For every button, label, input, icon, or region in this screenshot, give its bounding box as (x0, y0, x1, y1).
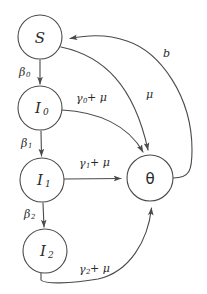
edge-label-beta0-greek: β (18, 66, 25, 79)
node-i1-subscript: 1 (45, 179, 51, 189)
node-s[interactable]: S (18, 15, 62, 59)
edge-i0-to-theta (62, 110, 143, 152)
node-i1-label: I (36, 171, 44, 189)
node-s-label: S (35, 29, 45, 47)
edge-label-gamma2-greek: γ (79, 263, 86, 276)
node-i2-subscript: 2 (47, 250, 54, 260)
edge-label-beta2: β 2 (23, 208, 36, 222)
node-theta[interactable]: θ (127, 155, 173, 201)
edge-label-beta1: β 1 (20, 137, 32, 151)
node-i2-label: I (39, 242, 47, 260)
edge-label-gamma1-plus-mu: γ 1 + μ (79, 156, 110, 171)
edge-label-gamma0-plus-mu: γ 0 + μ (76, 91, 107, 106)
edge-label-gamma2-plus-mu: γ 2 + μ (79, 262, 110, 277)
edge-label-mu: μ (146, 88, 153, 101)
node-i2[interactable]: I 2 (23, 229, 67, 273)
edge-label-beta2-subscript: 2 (30, 213, 36, 221)
edge-label-beta0: β 0 (18, 66, 31, 80)
edge-label-beta2-greek: β (23, 208, 30, 221)
edge-label-beta1-greek: β (20, 137, 27, 150)
node-i0-label: I (34, 99, 42, 117)
edge-i1-to-theta (64, 179, 121, 180)
edge-label-beta0-subscript: 0 (26, 71, 31, 79)
compartmental-flow-diagram: S I 0 I 1 I 2 θ β 0 β 1 (0, 0, 207, 294)
node-i0-subscript: 0 (43, 107, 49, 117)
node-i1[interactable]: I 1 (20, 158, 64, 202)
edge-label-gamma1-greek: γ (79, 157, 86, 170)
edge-label-gamma1-suffix: + μ (90, 156, 110, 169)
edge-label-b: b (163, 47, 170, 60)
edge-label-gamma2-suffix: + μ (90, 262, 110, 275)
diagram-canvas: S I 0 I 1 I 2 θ β 0 β 1 (0, 0, 207, 294)
edge-label-gamma0-suffix: + μ (87, 91, 107, 104)
edge-i0-to-i1 (41, 131, 42, 156)
edge-label-gamma0-greek: γ (76, 92, 83, 105)
node-theta-label: θ (145, 170, 154, 188)
edge-i1-to-i2 (43, 203, 44, 227)
node-i0[interactable]: I 0 (18, 86, 62, 130)
edge-label-beta1-subscript: 1 (28, 142, 32, 150)
